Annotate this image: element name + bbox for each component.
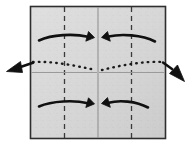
arrow-head bbox=[7, 62, 23, 73]
motion-arrow-arrow-pull-left bbox=[7, 62, 34, 73]
origami-diagram bbox=[0, 0, 191, 153]
origami-diagram-canvas bbox=[0, 0, 191, 153]
